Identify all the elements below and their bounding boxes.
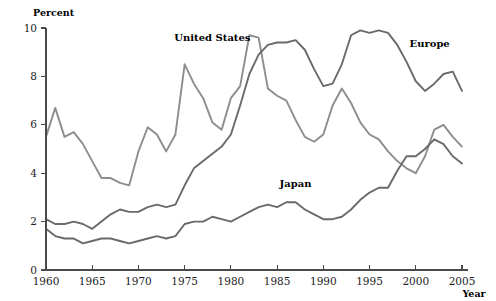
chart-plot-area: 0246810 19601965197019751980198519901995… [0,0,496,301]
series-label-united-states: United States [174,32,251,43]
y-axis-tick-label: 4 [30,167,37,179]
y-axis-tick-label: 10 [24,22,37,34]
x-axis-tick-label: 1985 [264,275,291,287]
series-line-europe [46,30,462,228]
x-axis-title: Year [461,288,486,299]
x-axis-tick-label: 1965 [79,275,106,287]
series-line-united-states [46,35,462,185]
x-axis-tick-label: 1980 [218,275,245,287]
series-label-japan: Japan [279,178,313,189]
series-line-japan [46,139,462,243]
x-axis-tick-label: 2000 [402,275,429,287]
unemployment-rate-chart: 0246810 19601965197019751980198519901995… [0,0,496,301]
x-axis-tick-label: 1975 [171,275,198,287]
y-axis-tick-label: 0 [30,264,37,276]
x-axis-tick-label: 1960 [33,275,60,287]
x-axis-ticks: 1960196519701975198019851990199520002005 [33,265,476,287]
y-axis-ticks: 0246810 [24,22,46,276]
x-axis-tick-label: 1995 [356,275,383,287]
axes-group: 0246810 19601965197019751980198519901995… [24,22,476,287]
y-axis-tick-label: 2 [30,215,37,227]
y-axis-tick-label: 6 [30,118,37,130]
y-axis-title: Percent [33,7,75,18]
chart-labels-group: United StatesEuropeJapan [174,32,449,188]
x-axis-tick-label: 2005 [449,275,476,287]
series-group [46,30,462,243]
series-label-europe: Europe [410,38,450,49]
x-axis-tick-label: 1990 [310,275,337,287]
y-axis-tick-label: 8 [30,70,37,82]
x-axis-tick-label: 1970 [125,275,152,287]
